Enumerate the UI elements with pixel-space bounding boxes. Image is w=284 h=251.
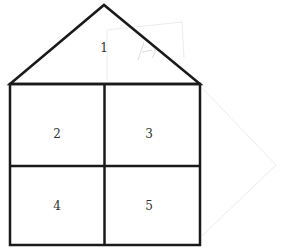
faint-ghost-marks xyxy=(107,22,276,236)
region-label-3: 3 xyxy=(145,127,153,141)
house-diagram: 1 2 3 4 5 xyxy=(0,0,284,251)
region-label-1: 1 xyxy=(100,41,108,55)
region-label-2: 2 xyxy=(53,127,61,141)
region-label-5: 5 xyxy=(145,199,153,213)
region-label-4: 4 xyxy=(53,199,61,213)
